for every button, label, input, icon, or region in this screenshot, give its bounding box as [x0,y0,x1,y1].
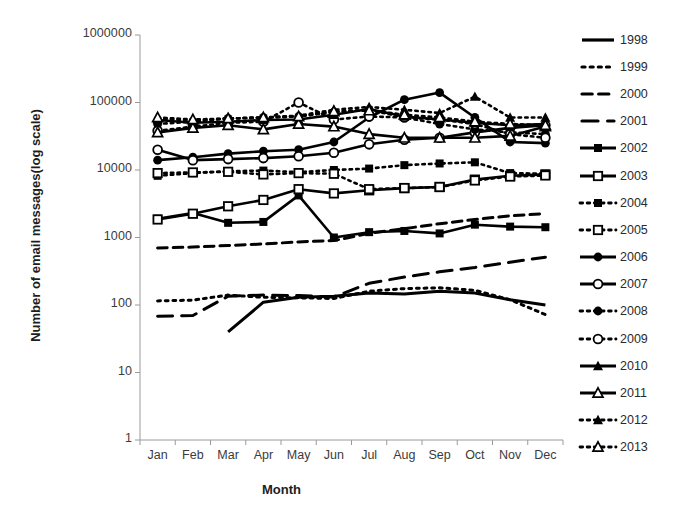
series-2005 [153,168,549,194]
chart-root: Number of email messages(log scale) Mont… [0,0,683,524]
data-point-square-open [541,171,549,179]
data-point-square-filled [471,221,479,229]
legend-item-2008[interactable]: 2008 [578,298,682,325]
legend-item-2004[interactable]: 2004 [578,189,682,216]
legend-swatch-2007-icon [578,277,618,291]
data-point-square-filled [365,228,373,236]
y-tick-label: 10 [20,364,132,378]
series-2003 [153,170,549,223]
data-point-square-open [224,168,232,176]
marker-square-open [365,185,373,193]
data-point-circle-open [259,154,268,163]
legend-label: 2005 [620,223,648,237]
marker-circle-open [365,140,374,149]
y-tick-label: 100000 [20,94,132,108]
legend-item-2002[interactable]: 2002 [578,135,682,162]
marker-square-open [594,171,602,179]
data-point-square-filled [436,159,444,167]
data-point-circle-filled [594,253,603,262]
marker-square-open [330,189,338,197]
marker-square-filled [400,161,408,169]
data-point-square-open [294,185,302,193]
legend-item-1998[interactable]: 1998 [578,26,682,53]
marker-square-open [189,210,197,218]
legend-swatch-2003-icon [578,169,618,183]
legend-item-2009[interactable]: 2009 [578,325,682,352]
marker-square-filled [224,219,232,227]
legend-label: 2011 [620,386,647,400]
marker-circle-filled [329,138,338,147]
legend-item-2011[interactable]: 2011 [578,379,682,406]
legend-swatch-2000-icon [578,87,618,101]
data-point-square-open [594,226,602,234]
y-axis-title: Number of email messages(log scale) [28,36,43,416]
data-point-circle-open [294,98,303,107]
chart-legend: 1998199920002001200220032004200520062007… [578,26,682,461]
legend-label: 2004 [620,196,648,210]
marker-square-open [541,171,549,179]
data-point-circle-open [294,152,303,161]
data-point-circle-open [594,280,603,289]
legend-item-2007[interactable]: 2007 [578,271,682,298]
legend-swatch-2010-icon [578,359,618,373]
legend-swatch-2005-icon [578,223,618,237]
data-point-square-open [471,176,479,184]
marker-square-filled [594,144,602,152]
data-point-square-filled [259,218,267,226]
data-point-circle-open [329,148,338,157]
data-point-circle-open [541,133,550,142]
series-line [158,288,546,315]
legend-label: 2012 [620,413,648,427]
marker-square-open [224,202,232,210]
legend-item-1999[interactable]: 1999 [578,53,682,80]
marker-circle-filled [594,307,603,316]
legend-item-2001[interactable]: 2001 [578,108,682,135]
legend-item-2003[interactable]: 2003 [578,162,682,189]
marker-square-filled [471,158,479,166]
legend-item-2012[interactable]: 2012 [578,407,682,434]
y-tick-label: 1 [20,431,132,445]
legend-item-2005[interactable]: 2005 [578,216,682,243]
data-point-circle-filled [435,88,444,97]
legend-item-2006[interactable]: 2006 [578,244,682,271]
marker-square-filled [330,234,338,242]
legend-swatch-2009-icon [578,332,618,346]
y-tick-label: 10000 [20,161,132,175]
marker-square-open [259,170,267,178]
marker-square-open [330,170,338,178]
series-1999 [158,288,546,315]
marker-square-open [189,168,197,176]
x-tick-label: Dec [521,448,569,462]
marker-square-open [259,196,267,204]
marker-square-open [224,168,232,176]
marker-circle-open [294,98,303,107]
legend-item-2010[interactable]: 2010 [578,352,682,379]
marker-circle-open [294,152,303,161]
marker-square-filled [436,159,444,167]
data-point-square-open [365,185,373,193]
y-tick-label: 1000 [20,229,132,243]
data-point-square-open [400,184,408,192]
legend-swatch-2006-icon [578,250,618,264]
data-point-square-filled [330,234,338,242]
legend-label: 2003 [620,169,648,183]
data-point-square-open [189,168,197,176]
data-point-circle-open [153,145,162,154]
data-point-square-open [189,210,197,218]
legend-swatch-2011-icon [578,386,618,400]
data-point-square-open [506,172,514,180]
data-point-square-open [594,171,602,179]
data-point-square-filled [400,161,408,169]
data-point-square-filled [471,158,479,166]
marker-circle-open [224,155,233,164]
data-point-square-filled [400,227,408,235]
data-point-square-open [153,169,161,177]
data-point-triangle-filled [470,91,480,100]
marker-square-open [294,169,302,177]
series-line [158,97,546,121]
legend-item-2000[interactable]: 2000 [578,80,682,107]
data-point-circle-open [188,156,197,165]
legend-item-2013[interactable]: 2013 [578,434,682,461]
series-group [153,88,551,332]
legend-label: 2000 [620,87,648,101]
